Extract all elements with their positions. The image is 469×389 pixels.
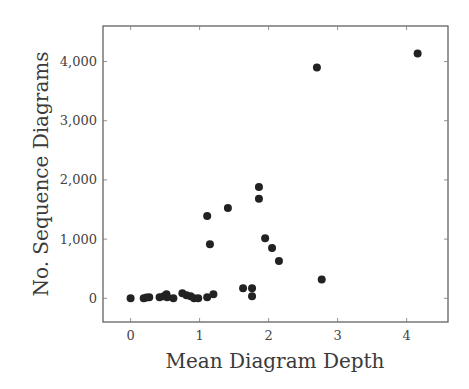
x-axis-title: Mean Diagram Depth — [165, 349, 384, 373]
plot-frame — [103, 26, 448, 322]
data-point — [275, 257, 283, 265]
data-point — [414, 50, 422, 58]
data-point — [169, 294, 177, 302]
y-tick-label: 3,000 — [60, 113, 97, 128]
x-tick-label: 1 — [195, 328, 203, 343]
x-tick-label: 0 — [126, 328, 134, 343]
data-point — [268, 244, 276, 252]
y-tick-label: 2,000 — [60, 172, 97, 187]
data-point — [248, 284, 256, 292]
data-point — [145, 293, 153, 301]
data-point — [127, 294, 135, 302]
data-point — [313, 63, 321, 71]
data-point — [248, 292, 256, 300]
data-point — [224, 204, 232, 212]
data-point — [209, 290, 217, 298]
data-point — [255, 183, 263, 191]
data-point — [203, 212, 211, 220]
data-point — [239, 284, 247, 292]
data-point — [194, 294, 202, 302]
data-points — [127, 50, 422, 303]
x-tick-label: 2 — [264, 328, 272, 343]
data-point — [261, 234, 269, 242]
y-tick-label: 1,000 — [60, 232, 97, 247]
y-tick-label: 0 — [89, 291, 97, 306]
y-axis-title: No. Sequence Diagrams — [29, 51, 53, 296]
y-tick-label: 4,000 — [60, 54, 97, 69]
data-point — [318, 275, 326, 283]
data-point — [255, 195, 263, 203]
y-axis-ticks: 01,0002,0003,0004,000 — [60, 54, 448, 306]
data-point — [206, 240, 214, 248]
x-tick-label: 4 — [402, 328, 410, 343]
x-tick-label: 3 — [333, 328, 341, 343]
scatter-chart: 01234 01,0002,0003,0004,000 Mean Diagram… — [0, 0, 469, 389]
